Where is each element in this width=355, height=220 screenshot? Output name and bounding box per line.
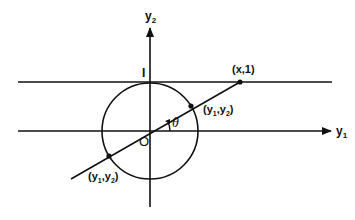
origin-label: O	[139, 134, 149, 149]
y2-axis-label: y2	[145, 9, 157, 25]
point-circle-upper-label: (y1,y2)	[203, 103, 234, 117]
unit-circle-diagram: y2 y1 I O θ (x,1) (y1,y2) (y1,y2)	[0, 0, 355, 220]
point-circle-lower-label: (y1,y2)	[88, 170, 119, 184]
point-x-1	[237, 79, 242, 84]
tick-one-label: I	[142, 66, 145, 80]
point-circle-upper	[188, 103, 193, 108]
y1-axis-label: y1	[336, 124, 348, 140]
point-circle-lower	[106, 153, 111, 158]
point-x-1-label: (x,1)	[232, 63, 255, 75]
theta-label: θ	[172, 115, 179, 130]
